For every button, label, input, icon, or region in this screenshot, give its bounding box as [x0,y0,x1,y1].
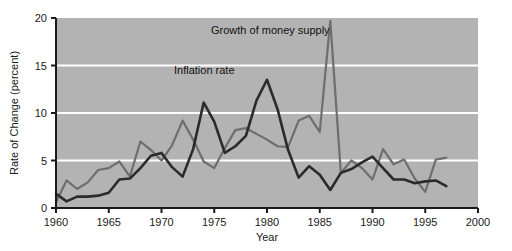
y-tick-label-20: 20 [35,12,47,24]
annotation-growth-of-money-supply: Growth of money supply [211,24,330,36]
x-axis-tick-labels: 196019651970197519801985199019952000 [44,216,490,228]
x-tick-label-1960: 1960 [44,216,68,228]
annotation-inflation-rate: Inflation rate [174,64,235,76]
x-tick-label-1985: 1985 [308,216,332,228]
line-chart: 196019651970197519801985199019952000 051… [0,0,512,251]
y-tick-label-0: 0 [41,202,47,214]
x-tick-label-1975: 1975 [202,216,226,228]
x-tick-label-1980: 1980 [255,216,279,228]
x-tick-label-1990: 1990 [360,216,384,228]
y-axis-title: Rate of Change (percent) [8,51,20,175]
x-tick-label-1965: 1965 [97,216,121,228]
y-tick-label-10: 10 [35,107,47,119]
x-tick-label-2000: 2000 [466,216,490,228]
chart-figure: 196019651970197519801985199019952000 051… [0,0,512,251]
y-tick-label-5: 5 [41,155,47,167]
x-tick-label-1995: 1995 [413,216,437,228]
x-axis-title: Year [256,231,279,243]
y-tick-label-15: 15 [35,60,47,72]
x-tick-label-1970: 1970 [149,216,173,228]
